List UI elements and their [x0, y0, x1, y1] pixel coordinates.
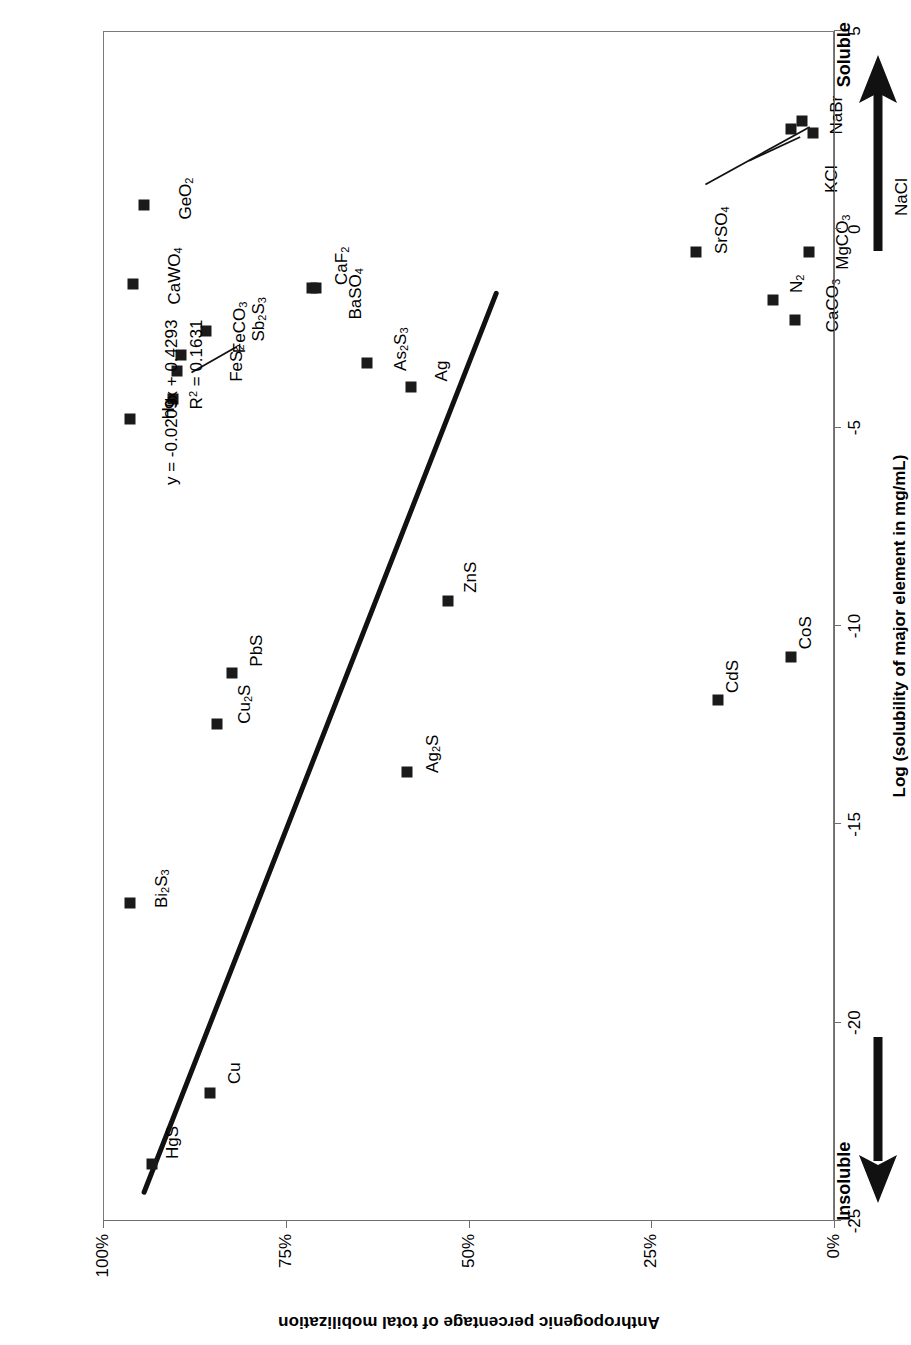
- data-point-marker: [786, 124, 797, 135]
- data-point-label-pbs: PbS: [247, 635, 264, 667]
- data-point-label-cawo4: CaWO4: [166, 247, 184, 304]
- y-axis-tick: [651, 1221, 652, 1228]
- data-point-marker: [789, 314, 800, 325]
- soluble-caption: Soluble: [834, 22, 855, 87]
- data-point-label-zns: ZnS: [461, 562, 478, 593]
- data-point-label-bi2s3: Bi2S3: [153, 869, 171, 908]
- data-point-label-hgs: HgS: [163, 1126, 180, 1159]
- data-point-marker: [808, 128, 819, 139]
- y-axis: 0%25%50%75%100%: [103, 1220, 834, 1221]
- data-point-marker: [362, 358, 373, 369]
- data-point-label-cds: CdS: [724, 660, 741, 693]
- data-point-marker: [212, 719, 223, 730]
- data-point-marker: [442, 596, 453, 607]
- y-axis-tick-label: 100%: [93, 1234, 113, 1277]
- plot-area: HgSCuBi2S3Ag2SCu2SPbSCdSCoSZnSHgFeS2Sb2S…: [103, 31, 834, 1221]
- y-axis-line: [103, 1220, 834, 1221]
- y-axis-tick-label: 25%: [641, 1234, 661, 1268]
- y-axis-tick: [834, 1221, 835, 1228]
- trendline-equation-block: y = -0.0209x + 0.4293 R2 = 0.1631: [160, 320, 209, 485]
- data-point-marker: [804, 247, 815, 258]
- data-point-marker: [204, 1088, 215, 1099]
- y-axis-tick-label: 50%: [459, 1234, 479, 1268]
- data-point-marker: [310, 282, 321, 293]
- data-point-label-cu: Cu: [225, 1062, 242, 1084]
- data-point-label-srso4: SrSO4: [713, 206, 731, 254]
- data-point-label-n2: N2: [788, 275, 806, 293]
- solubility-direction-arrows: Insoluble Soluble: [834, 31, 874, 1221]
- leader-line-kcl: [749, 137, 800, 161]
- trendline-r-squared: R2 = 0.1631: [185, 320, 210, 485]
- data-point-marker: [139, 199, 150, 210]
- data-point-marker: [713, 695, 724, 706]
- data-point-marker: [226, 667, 237, 678]
- trendline-equation: y = -0.0209x + 0.4293: [160, 320, 185, 485]
- y-axis-tick: [469, 1221, 470, 1228]
- y-axis-title: Anthropogenic percentage of total mobili…: [103, 1309, 834, 1335]
- data-point-marker: [146, 1159, 157, 1170]
- data-point-label-cu2s: Cu2S: [236, 685, 254, 724]
- leader-line-nacl: [705, 127, 809, 184]
- r-squared-value: 0.1631: [187, 320, 206, 372]
- data-point-marker: [402, 766, 413, 777]
- data-point-marker: [128, 278, 139, 289]
- data-point-label-caf2: CaF2: [333, 247, 351, 285]
- y-axis-title-text: Anthropogenic percentage of total mobili…: [278, 1312, 660, 1332]
- data-point-label-as2s3: As2S3: [392, 327, 410, 370]
- data-point-label-ag: Ag: [433, 361, 450, 382]
- insoluble-arrow-icon: [856, 1035, 900, 1205]
- soluble-arrow-icon: [856, 53, 900, 253]
- data-point-marker: [797, 116, 808, 127]
- y-axis-tick-label: 0%: [824, 1234, 844, 1259]
- data-point-label-cos: CoS: [797, 616, 814, 649]
- data-point-marker: [124, 897, 135, 908]
- y-axis-tick: [286, 1221, 287, 1228]
- data-point-label-ag2s: Ag2S: [424, 735, 442, 773]
- data-point-label-feco3: FeCO3: [231, 302, 249, 353]
- data-point-marker: [691, 247, 702, 258]
- data-point-label-geo2: GeO2: [177, 178, 195, 220]
- plot-inner: HgSCuBi2S3Ag2SCu2SPbSCdSCoSZnSHgFeS2Sb2S…: [104, 32, 833, 1220]
- y-axis-tick: [103, 1221, 104, 1228]
- data-point-marker: [767, 294, 778, 305]
- data-point-label-sb2s3: Sb2S3: [250, 297, 268, 341]
- data-point-marker: [124, 413, 135, 424]
- data-point-marker: [786, 651, 797, 662]
- insoluble-caption: Insoluble: [834, 1142, 855, 1221]
- data-point-marker: [406, 382, 417, 393]
- y-axis-tick-label: 75%: [276, 1234, 296, 1268]
